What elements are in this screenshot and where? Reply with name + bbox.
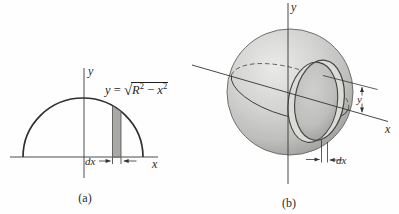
b-dx-label: dx (336, 155, 346, 166)
eq-R: R (132, 83, 140, 97)
a-y-axis-label: y (88, 65, 93, 77)
a-x-axis-label: x (152, 158, 157, 170)
eq-equals: = (111, 83, 124, 97)
eq-radical-sign: √ (124, 82, 131, 98)
b-dim-y-label: y (357, 94, 362, 105)
diagram-canvas (0, 0, 399, 214)
a-semicircle-curve (23, 98, 143, 157)
eq-x-exp: 2 (163, 81, 167, 91)
b-x-axis-label: x (385, 123, 390, 135)
a-differential-strip (113, 106, 122, 157)
a-dx-label: dx (85, 156, 95, 167)
b-y-axis-label: y (291, 1, 296, 13)
textbook-figure-sphere-volume-element: y x dx y = √R2 − x2 (a) y x y dx (b) (0, 0, 399, 214)
a-curve-equation: y = √R2 − x2 (105, 81, 168, 98)
eq-minus: − (144, 83, 157, 97)
b-caption: (b) (277, 196, 301, 211)
a-caption: (a) (73, 191, 97, 206)
